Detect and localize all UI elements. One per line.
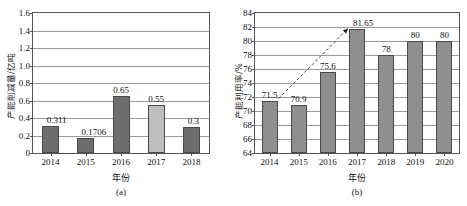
y-tick-label: 1.2: [19, 43, 30, 53]
bar-2015: [291, 105, 307, 153]
y-tick-mark: [252, 69, 255, 70]
y-tick-label: 0.8: [19, 78, 30, 88]
x-tick-mark: [156, 153, 157, 156]
x-tick-label-2014: 2014: [261, 157, 279, 167]
y-tick-mark: [252, 97, 255, 98]
bar-2020: [436, 41, 452, 153]
y-tick-label: 1.0: [19, 61, 30, 71]
y-tick-label: 0.4: [19, 113, 30, 123]
x-tick-mark: [415, 153, 416, 156]
trend-arrow-head: [343, 28, 348, 33]
bar-2017: [148, 105, 165, 153]
y-tick-mark: [252, 55, 255, 56]
bar-2016: [113, 96, 130, 153]
y-tick-label: 70: [243, 106, 252, 116]
y-tick-mark: [30, 31, 33, 32]
bar-value-label-2018: 78: [382, 44, 391, 54]
y-tick-mark: [30, 13, 33, 14]
bar-value-label-2015: 0.1706: [81, 127, 106, 137]
y-tick-label: 74: [243, 78, 252, 88]
bar-value-label-2014: 71.5: [262, 90, 278, 100]
y-tick-mark: [30, 136, 33, 137]
panel-caption-b: (b): [352, 187, 363, 197]
y-tick-label: 76: [243, 64, 252, 74]
grid-line: [33, 83, 209, 84]
y-tick-label: 66: [243, 134, 252, 144]
y-tick-label: 84: [243, 8, 252, 18]
x-tick-label-2017: 2017: [348, 157, 366, 167]
bar-2018: [183, 127, 200, 153]
x-axis-title-a: 年份: [112, 171, 130, 184]
x-tick-label-2019: 2019: [406, 157, 424, 167]
x-tick-label-2020: 2020: [435, 157, 453, 167]
y-tick-mark: [30, 83, 33, 84]
y-tick-label: 0.6: [19, 96, 30, 106]
x-tick-mark: [444, 153, 445, 156]
y-tick-label: 1.4: [19, 26, 30, 36]
x-tick-label-2018: 2018: [182, 157, 200, 167]
grid-line: [33, 66, 209, 67]
y-tick-mark: [252, 153, 255, 154]
y-tick-mark: [252, 125, 255, 126]
x-tick-mark: [270, 153, 271, 156]
x-tick-label-2017: 2017: [147, 157, 165, 167]
bar-value-label-2019: 80: [411, 30, 420, 40]
y-tick-label: 0: [26, 148, 31, 158]
plot-area-b: 646668707274767880828471.5201470.9201575…: [254, 12, 460, 154]
plot-area-a: 00.20.40.60.81.01.21.41.60.31120140.1706…: [32, 12, 210, 154]
y-tick-mark: [30, 48, 33, 49]
x-tick-mark: [299, 153, 300, 156]
y-tick-label: 68: [243, 120, 252, 130]
x-tick-mark: [386, 153, 387, 156]
y-tick-mark: [252, 83, 255, 84]
bar-2018: [378, 55, 394, 153]
x-tick-label-2018: 2018: [377, 157, 395, 167]
y-tick-label: 0.2: [19, 131, 30, 141]
y-tick-label: 72: [243, 92, 252, 102]
x-tick-label-2016: 2016: [319, 157, 337, 167]
grid-line: [33, 48, 209, 49]
figure-root: 产能削减量/亿吨 00.20.40.60.81.01.21.41.60.3112…: [0, 0, 467, 206]
y-tick-label: 1.6: [19, 8, 30, 18]
y-tick-mark: [252, 41, 255, 42]
y-tick-mark: [252, 27, 255, 28]
y-tick-mark: [252, 139, 255, 140]
y-tick-label: 64: [243, 148, 252, 158]
bar-value-label-2016: 0.65: [113, 85, 129, 95]
bar-value-label-2018: 0.3: [188, 116, 199, 126]
x-tick-mark: [357, 153, 358, 156]
grid-line: [33, 31, 209, 32]
bar-value-label-2017: 0.55: [148, 94, 164, 104]
y-tick-label: 78: [243, 50, 252, 60]
x-tick-mark: [121, 153, 122, 156]
bar-value-label-2015: 70.9: [291, 94, 307, 104]
y-tick-mark: [252, 111, 255, 112]
y-tick-label: 82: [243, 22, 252, 32]
bar-2014: [42, 126, 59, 153]
bar-2016: [320, 72, 336, 153]
x-tick-label-2015: 2015: [290, 157, 308, 167]
x-tick-label-2016: 2016: [112, 157, 130, 167]
x-tick-mark: [51, 153, 52, 156]
x-axis-title-b: 年份: [348, 171, 366, 184]
trend-dashed-line: [279, 28, 348, 98]
chart-panel-b: 产能利用率/% 646668707274767880828471.5201470…: [230, 0, 467, 206]
panel-caption-a: (a): [116, 187, 126, 197]
y-tick-mark: [252, 13, 255, 14]
bar-2014: [262, 101, 278, 154]
bar-2019: [407, 41, 423, 153]
y-tick-mark: [30, 118, 33, 119]
bar-value-label-2020: 80: [440, 30, 449, 40]
x-tick-mark: [191, 153, 192, 156]
x-tick-mark: [86, 153, 87, 156]
y-tick-mark: [30, 66, 33, 67]
y-tick-mark: [30, 101, 33, 102]
bar-value-label-2016: 75.6: [320, 61, 336, 71]
y-tick-label: 80: [243, 36, 252, 46]
bar-2017: [349, 29, 365, 153]
x-tick-label-2014: 2014: [42, 157, 60, 167]
x-tick-mark: [328, 153, 329, 156]
y-axis-title-a: 产能削减量/亿吨: [4, 53, 16, 119]
chart-panel-a: 产能削减量/亿吨 00.20.40.60.81.01.21.41.60.3112…: [0, 0, 230, 206]
x-tick-label-2015: 2015: [77, 157, 95, 167]
